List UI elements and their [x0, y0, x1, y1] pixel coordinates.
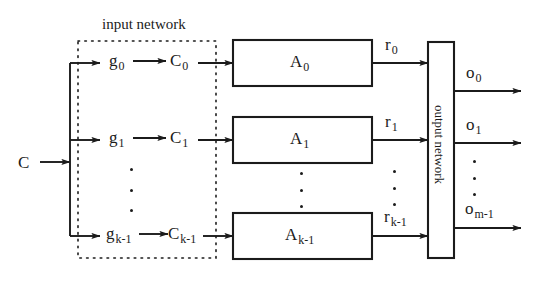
output-subscript-1: 1: [475, 123, 482, 137]
g-symbol-1: g: [109, 128, 118, 147]
c-label-1: C1: [170, 129, 188, 149]
vertical-dots-input-column: [128, 168, 134, 212]
a-symbol-2: A: [285, 225, 297, 244]
output-label-2: om-1: [465, 200, 494, 220]
c-subscript-0: 0: [181, 59, 188, 73]
g-subscript-2: k-1: [115, 232, 132, 246]
g-label-2: gk-1: [106, 225, 132, 245]
a-symbol-1: A: [290, 129, 302, 148]
c-label-2: Ck-1: [168, 225, 196, 245]
g-symbol-2: g: [106, 224, 115, 243]
output-subscript-2: m-1: [474, 207, 494, 221]
input-signal-symbol: C: [18, 153, 29, 172]
r-subscript-1: 1: [391, 120, 398, 134]
output-label-1: o1: [466, 116, 482, 136]
output-label-0: o0: [466, 64, 482, 84]
output-symbol-2: o: [465, 199, 474, 218]
a-label-0: A0: [290, 53, 309, 73]
vertical-dots-o-labels: [471, 160, 477, 196]
c-subscript-1: 1: [181, 136, 188, 150]
c-symbol-2: C: [168, 224, 179, 243]
c-symbol-1: C: [170, 128, 181, 147]
a-symbol-0: A: [290, 52, 302, 71]
vertical-dots-r-labels: [391, 170, 397, 206]
c-subscript-2: k-1: [179, 232, 196, 246]
g-label-0: g0: [109, 52, 125, 72]
output-subscript-0: 0: [475, 71, 482, 85]
diagram-vector-layer: [0, 0, 545, 285]
g-symbol-0: g: [109, 51, 118, 70]
a-label-2: Ak-1: [285, 226, 314, 246]
r-label-2: rk-1: [384, 208, 407, 228]
r-symbol-2: r: [384, 207, 390, 226]
a-subscript-0: 0: [302, 60, 309, 74]
input-network-label: input network: [102, 17, 186, 32]
output-symbol-1: o: [466, 115, 475, 134]
diagram-canvas: input network output network C g0 C0 A0 …: [0, 0, 545, 285]
output-symbol-0: o: [466, 63, 475, 82]
r-subscript-0: 0: [391, 43, 398, 57]
g-subscript-1: 1: [118, 136, 125, 150]
g-subscript-0: 0: [118, 59, 125, 73]
r-symbol-1: r: [385, 112, 391, 131]
a-subscript-2: k-1: [297, 233, 314, 247]
g-label-1: g1: [109, 129, 125, 149]
a-subscript-1: 1: [302, 137, 309, 151]
a-label-1: A1: [290, 130, 309, 150]
c-label-0: C0: [170, 52, 188, 72]
r-subscript-2: k-1: [390, 215, 407, 229]
vertical-dots-a-boxes: [298, 172, 304, 208]
r-label-0: r0: [385, 36, 398, 56]
c-symbol-0: C: [170, 51, 181, 70]
output-network-label: output network: [431, 105, 447, 184]
r-symbol-0: r: [385, 35, 391, 54]
r-label-1: r1: [385, 113, 398, 133]
input-signal-label: C: [18, 154, 29, 171]
